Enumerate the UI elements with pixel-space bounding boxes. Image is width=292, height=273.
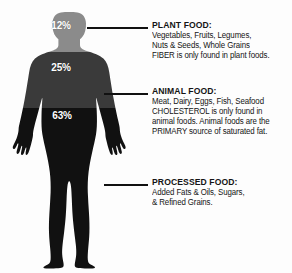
plant-food-block: PLANT FOOD: Vegetables, Fruits, Legumes,…	[152, 21, 292, 61]
animal-food-block: ANIMAL FOOD: Meat, Dairy, Eggs, Fish, Se…	[152, 87, 292, 137]
leader-line-animal-food	[104, 93, 148, 95]
human-body-silhouette	[0, 0, 146, 273]
animal-food-heading: ANIMAL FOOD:	[152, 87, 292, 97]
leader-line-plant-food	[87, 27, 148, 29]
segment-lower	[0, 108, 146, 273]
leader-line-processed-food	[104, 184, 148, 186]
plant-food-line-3: FIBER is only found in plant foods.	[152, 51, 284, 61]
processed-food-heading: PROCESSED FOOD:	[152, 178, 292, 188]
processed-food-block: PROCESSED FOOD: Added Fats & Oils, Sugar…	[152, 178, 292, 208]
segment-torso	[0, 52, 146, 108]
percent-label-lower: 63%	[40, 110, 84, 121]
body-figure-panel: 12% 25% 63%	[0, 0, 146, 273]
plant-food-heading: PLANT FOOD:	[152, 21, 292, 31]
animal-food-line-4: PRIMARY source of saturated fat.	[152, 127, 284, 137]
percent-label-head: 12%	[40, 20, 82, 31]
percent-label-torso: 25%	[38, 62, 84, 73]
silhouette-segments	[0, 0, 146, 273]
processed-food-line-2: & Refined Grains.	[152, 198, 284, 208]
